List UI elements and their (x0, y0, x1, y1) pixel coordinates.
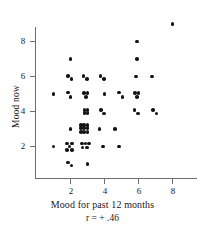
data-point (135, 40, 139, 44)
data-point (70, 77, 74, 81)
data-point (81, 146, 85, 150)
scatter-plot-figure: 8 6 4 2 2 4 6 8 Mood now Mood for past 1… (0, 0, 205, 230)
data-point (102, 112, 106, 116)
data-point (103, 92, 107, 96)
data-point (70, 164, 74, 168)
data-point (136, 112, 140, 116)
data-point (86, 162, 90, 166)
data-point (65, 148, 69, 152)
data-point (133, 108, 137, 112)
data-point (85, 77, 89, 81)
data-point (135, 95, 139, 99)
data-point (150, 75, 154, 79)
data-point (86, 111, 90, 115)
data-point (171, 22, 175, 26)
data-point (155, 112, 159, 116)
data-point (66, 161, 70, 165)
data-points-layer (0, 0, 205, 230)
data-point (52, 145, 56, 149)
data-point (69, 95, 73, 99)
data-point (84, 95, 88, 99)
data-point (69, 57, 73, 61)
data-point (151, 108, 155, 112)
data-point (134, 75, 138, 79)
data-point (117, 91, 121, 95)
data-point (98, 127, 102, 131)
data-point (101, 145, 105, 149)
data-point (135, 57, 139, 61)
data-point (102, 77, 106, 81)
data-point (85, 146, 89, 150)
data-point (70, 148, 74, 152)
data-point (113, 127, 117, 131)
data-point (117, 145, 121, 149)
data-point (52, 92, 56, 96)
data-point (86, 130, 90, 134)
data-point (66, 91, 70, 95)
data-point (121, 95, 125, 99)
data-point (87, 142, 91, 146)
data-point (69, 127, 73, 131)
